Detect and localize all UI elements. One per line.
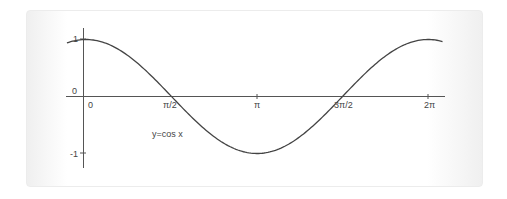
x-label-two-pi: 2π: [424, 100, 435, 110]
cosine-chart: 1 0 -1 0 π/2 π 3π/2 2π y=cos x: [0, 0, 507, 199]
y-label-0: 0: [72, 86, 77, 96]
curve-label: y=cos x: [152, 129, 183, 139]
x-label-0: 0: [88, 100, 93, 110]
y-label-1: 1: [73, 34, 78, 44]
y-label-neg1: -1: [70, 149, 78, 159]
x-label-pi: π: [254, 100, 260, 110]
x-label-half-pi: π/2: [163, 100, 177, 110]
x-label-three-half-pi: 3π/2: [334, 100, 353, 110]
